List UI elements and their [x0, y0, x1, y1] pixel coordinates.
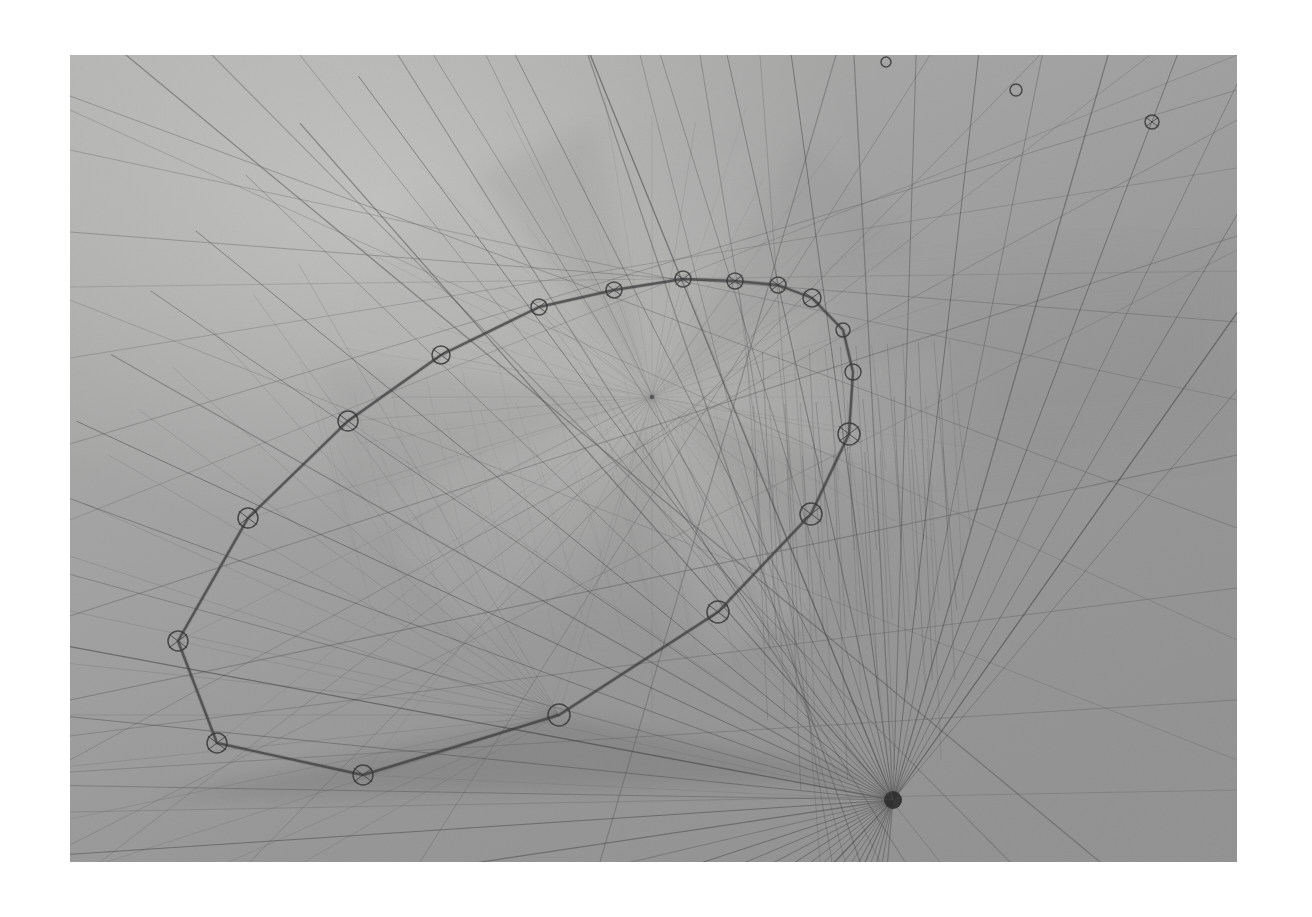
drawing-artboard	[70, 55, 1237, 862]
drawing-surface	[70, 55, 1237, 862]
paper-grain	[70, 55, 1237, 862]
photo-frame: Graphite geometric construction drawing …	[0, 0, 1312, 917]
